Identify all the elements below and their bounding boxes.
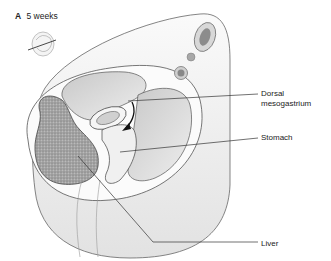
label-dorsal-mesogastrium: Dorsal mesogastrium (261, 89, 311, 108)
label-dorsal-line1: Dorsal (261, 89, 311, 99)
embryo-cross-section-diagram (0, 0, 331, 261)
embryo-thumbnail-icon (28, 32, 56, 56)
label-stomach: Stomach (261, 133, 293, 143)
label-liver: Liver (261, 239, 278, 249)
label-dorsal-line2: mesogastrium (261, 99, 311, 109)
